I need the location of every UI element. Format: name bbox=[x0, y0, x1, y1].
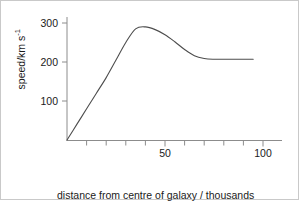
x-axis-title: distance from centre of galaxy / thousan… bbox=[57, 164, 297, 202]
x-tick-label-50: 50 bbox=[150, 147, 180, 159]
chart-figure: 300 200 100 50 100 speed/km s-1 distance… bbox=[0, 0, 299, 200]
y-tick-label-100: 100 bbox=[28, 95, 58, 107]
x-axis-title-line-1: distance from centre of galaxy / thousan… bbox=[57, 189, 297, 202]
x-tick-label-100: 100 bbox=[248, 147, 278, 159]
y-axis-title: speed/km s-1 bbox=[15, 11, 28, 107]
rotation-curve-line bbox=[67, 27, 253, 140]
y-tick-label-200: 200 bbox=[28, 56, 58, 68]
y-tick-label-300: 300 bbox=[28, 17, 58, 29]
y-axis-title-exponent: -1 bbox=[13, 29, 22, 36]
y-axis-title-text: speed/km s bbox=[15, 36, 27, 90]
x-axis-ticks bbox=[87, 141, 263, 147]
y-axis-ticks bbox=[62, 23, 67, 101]
